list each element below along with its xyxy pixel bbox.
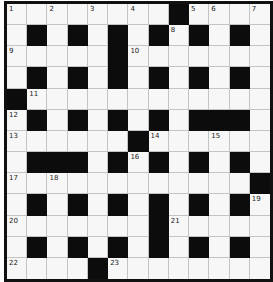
answer-cell[interactable] xyxy=(169,89,189,110)
answer-cell[interactable]: 6 xyxy=(209,4,229,25)
answer-cell[interactable] xyxy=(230,4,250,25)
answer-cell[interactable] xyxy=(230,216,250,237)
answer-cell[interactable] xyxy=(169,152,189,173)
answer-cell[interactable] xyxy=(128,173,148,194)
answer-cell[interactable] xyxy=(88,216,108,237)
answer-cell[interactable] xyxy=(250,46,270,67)
answer-cell[interactable] xyxy=(250,152,270,173)
answer-cell[interactable] xyxy=(68,46,88,67)
answer-cell[interactable] xyxy=(68,258,88,279)
answer-cell[interactable] xyxy=(88,89,108,110)
answer-cell[interactable] xyxy=(189,258,209,279)
answer-cell[interactable] xyxy=(250,237,270,258)
answer-cell[interactable] xyxy=(7,25,27,46)
answer-cell[interactable] xyxy=(189,216,209,237)
answer-cell[interactable]: 23 xyxy=(108,258,128,279)
answer-cell[interactable] xyxy=(47,25,67,46)
answer-cell[interactable] xyxy=(7,237,27,258)
answer-cell[interactable] xyxy=(149,4,169,25)
answer-cell[interactable] xyxy=(209,237,229,258)
answer-cell[interactable] xyxy=(230,258,250,279)
answer-cell[interactable] xyxy=(108,216,128,237)
answer-cell[interactable] xyxy=(47,131,67,152)
answer-cell[interactable] xyxy=(250,216,270,237)
answer-cell[interactable] xyxy=(128,237,148,258)
answer-cell[interactable] xyxy=(68,89,88,110)
answer-cell[interactable] xyxy=(47,110,67,131)
answer-cell[interactable] xyxy=(27,258,47,279)
answer-cell[interactable]: 8 xyxy=(169,25,189,46)
answer-cell[interactable] xyxy=(128,194,148,215)
answer-cell[interactable]: 11 xyxy=(27,89,47,110)
answer-cell[interactable] xyxy=(47,67,67,88)
answer-cell[interactable] xyxy=(209,216,229,237)
answer-cell[interactable] xyxy=(47,46,67,67)
answer-cell[interactable]: 21 xyxy=(169,216,189,237)
answer-cell[interactable] xyxy=(250,67,270,88)
answer-cell[interactable] xyxy=(189,131,209,152)
answer-cell[interactable] xyxy=(169,173,189,194)
answer-cell[interactable]: 10 xyxy=(128,46,148,67)
answer-cell[interactable] xyxy=(88,110,108,131)
answer-cell[interactable] xyxy=(209,67,229,88)
answer-cell[interactable] xyxy=(250,89,270,110)
answer-cell[interactable]: 7 xyxy=(250,4,270,25)
answer-cell[interactable] xyxy=(169,67,189,88)
answer-cell[interactable]: 19 xyxy=(250,194,270,215)
answer-cell[interactable] xyxy=(47,258,67,279)
answer-cell[interactable] xyxy=(149,258,169,279)
answer-cell[interactable] xyxy=(149,173,169,194)
answer-cell[interactable] xyxy=(88,237,108,258)
answer-cell[interactable] xyxy=(27,131,47,152)
answer-cell[interactable] xyxy=(169,258,189,279)
answer-cell[interactable] xyxy=(230,173,250,194)
answer-cell[interactable] xyxy=(88,194,108,215)
answer-cell[interactable] xyxy=(209,194,229,215)
answer-cell[interactable] xyxy=(88,131,108,152)
answer-cell[interactable] xyxy=(88,152,108,173)
answer-cell[interactable] xyxy=(47,194,67,215)
answer-cell[interactable]: 17 xyxy=(7,173,27,194)
answer-cell[interactable]: 3 xyxy=(88,4,108,25)
answer-cell[interactable] xyxy=(149,46,169,67)
answer-cell[interactable] xyxy=(189,173,209,194)
answer-cell[interactable] xyxy=(209,89,229,110)
answer-cell[interactable] xyxy=(250,25,270,46)
answer-cell[interactable] xyxy=(128,258,148,279)
answer-cell[interactable]: 14 xyxy=(149,131,169,152)
answer-cell[interactable]: 12 xyxy=(7,110,27,131)
answer-cell[interactable] xyxy=(88,25,108,46)
answer-cell[interactable]: 4 xyxy=(128,4,148,25)
answer-cell[interactable] xyxy=(27,173,47,194)
answer-cell[interactable] xyxy=(209,173,229,194)
answer-cell[interactable] xyxy=(230,131,250,152)
answer-cell[interactable] xyxy=(7,194,27,215)
answer-cell[interactable] xyxy=(108,89,128,110)
answer-cell[interactable] xyxy=(128,216,148,237)
answer-cell[interactable] xyxy=(189,89,209,110)
answer-cell[interactable]: 20 xyxy=(7,216,27,237)
answer-cell[interactable]: 13 xyxy=(7,131,27,152)
answer-cell[interactable] xyxy=(108,4,128,25)
answer-cell[interactable] xyxy=(27,46,47,67)
answer-cell[interactable] xyxy=(88,67,108,88)
answer-cell[interactable] xyxy=(230,46,250,67)
answer-cell[interactable] xyxy=(250,258,270,279)
answer-cell[interactable] xyxy=(108,131,128,152)
answer-cell[interactable]: 1 xyxy=(7,4,27,25)
answer-cell[interactable] xyxy=(7,152,27,173)
answer-cell[interactable] xyxy=(209,46,229,67)
answer-cell[interactable]: 5 xyxy=(189,4,209,25)
answer-cell[interactable] xyxy=(128,110,148,131)
answer-cell[interactable] xyxy=(169,110,189,131)
answer-cell[interactable] xyxy=(250,131,270,152)
answer-cell[interactable] xyxy=(27,216,47,237)
answer-cell[interactable]: 16 xyxy=(128,152,148,173)
answer-cell[interactable] xyxy=(209,25,229,46)
answer-cell[interactable] xyxy=(68,173,88,194)
answer-cell[interactable] xyxy=(128,67,148,88)
answer-cell[interactable] xyxy=(108,173,128,194)
answer-cell[interactable] xyxy=(169,131,189,152)
answer-cell[interactable]: 2 xyxy=(47,4,67,25)
answer-cell[interactable] xyxy=(209,152,229,173)
